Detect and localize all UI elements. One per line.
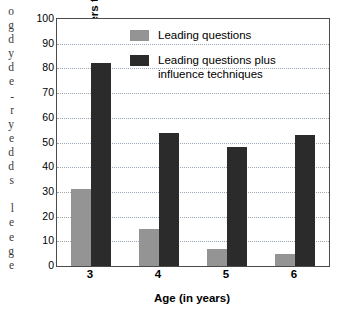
bar [91,63,111,266]
margin-text-line: - [0,89,14,103]
y-tick-label: 50 [42,137,54,147]
margin-text-line: y [0,46,14,60]
bar-chart-figure: Mean percent yes answers to misleading q… [18,0,346,318]
margin-text-line: e [0,215,14,229]
y-tick-label: 70 [42,87,54,97]
margin-text-line: g [0,244,14,258]
x-axis-title: Age (in years) [56,292,328,304]
x-tick-label: 4 [155,268,161,280]
margin-text-line: s [0,173,14,187]
margin-text-line: y [0,117,14,131]
page-margin-text: ogdyde-ryeddsleege [0,0,14,318]
bar [207,249,227,266]
x-tick-label: 3 [87,268,93,280]
margin-text-line: d [0,159,14,173]
y-tick-label: 10 [42,235,54,245]
y-tick-label: 20 [42,211,54,221]
chart-legend: Leading questionsLeading questions plus … [130,28,325,92]
margin-text-line: e [0,131,14,145]
bar [71,189,91,266]
legend-label: Leading questions plus influence techniq… [158,53,276,81]
margin-text-line: e [0,230,14,244]
y-tick-label: 60 [42,112,54,122]
bar [159,133,179,266]
bar [295,135,315,266]
margin-text-line: l [0,201,14,215]
bar [275,254,295,266]
y-tick-label: 100 [36,13,54,23]
x-tick-label: 5 [223,268,229,280]
legend-label: Leading questions [158,28,251,42]
legend-item: Leading questions plus influence techniq… [130,53,325,81]
y-axis-tick-labels: 0102030405060708090100 [32,0,54,318]
margin-text-line [0,187,14,201]
y-tick-label: 30 [42,186,54,196]
margin-text-line: e [0,74,14,88]
x-tick-label: 6 [291,268,297,280]
margin-text-line: o [0,4,14,18]
margin-text-line: g [0,18,14,32]
legend-swatch [130,30,149,41]
legend-item: Leading questions [130,28,325,42]
y-tick-label: 0 [48,260,54,270]
y-tick-label: 90 [42,38,54,48]
bar [227,147,247,266]
margin-text-line: d [0,60,14,74]
x-axis-tick-labels: 3456 [56,268,328,284]
bar [139,229,159,266]
margin-text-line: e [0,258,14,272]
margin-text-line: d [0,145,14,159]
margin-text-line: r [0,103,14,117]
margin-text-line: d [0,32,14,46]
legend-swatch [130,55,149,66]
y-tick-label: 40 [42,161,54,171]
y-tick-label: 80 [42,62,54,72]
